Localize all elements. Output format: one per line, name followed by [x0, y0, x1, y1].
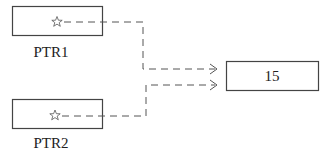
pointer-diagram: PTR1 PTR2 15 — [0, 0, 326, 155]
ptr1-box — [13, 7, 103, 36]
ptr1-label: PTR1 — [33, 44, 68, 60]
ptr2-label: PTR2 — [33, 135, 68, 151]
value-text: 15 — [265, 68, 280, 84]
